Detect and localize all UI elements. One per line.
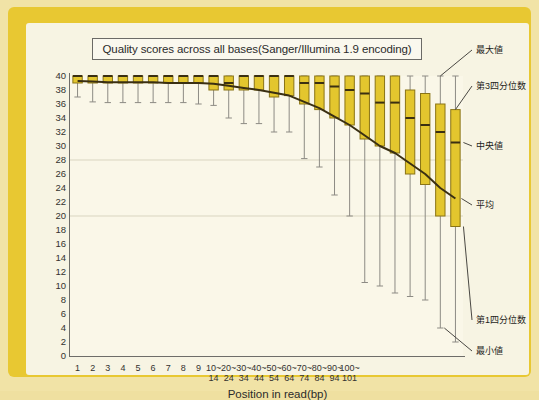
- boxplot-item: [224, 76, 233, 118]
- boxplot-item: [133, 76, 142, 103]
- y-axis-tick-24: 24: [40, 183, 66, 193]
- boxplot-item: [300, 76, 309, 159]
- boxplot-item: [375, 76, 384, 286]
- boxplot-item: [73, 76, 82, 97]
- y-axis-tick-38: 38: [40, 85, 66, 95]
- boxplot-item: [164, 76, 173, 103]
- y-axis-tick-2: 2: [40, 337, 66, 347]
- boxplot-item: [88, 76, 97, 102]
- chart-panel: Quality scores across all bases(Sanger/I…: [26, 23, 529, 375]
- boxplot-item: [390, 76, 399, 293]
- annotation-min: 最小値: [476, 346, 503, 356]
- y-axis-tick-0: 0: [40, 351, 66, 361]
- boxplot-item: [436, 76, 445, 328]
- y-axis-tick-6: 6: [40, 309, 66, 319]
- boxplot-item: [239, 76, 248, 124]
- y-axis-tick-16: 16: [40, 239, 66, 249]
- boxplot-item: [330, 76, 339, 195]
- boxplot-item: [421, 76, 430, 300]
- y-axis-labels: 4038363432302826242220181614121086420: [36, 76, 66, 356]
- boxplot-item: [148, 76, 157, 103]
- y-axis-line: [69, 73, 70, 357]
- leader-q1: [463, 227, 472, 321]
- chart-title: Quality scores across all bases(Sanger/I…: [92, 38, 422, 60]
- y-axis-tick-14: 14: [40, 253, 66, 263]
- boxplot-item: [405, 76, 414, 297]
- y-axis-tick-12: 12: [40, 267, 66, 277]
- annotation-q1: 第1四分位数: [476, 315, 526, 325]
- annotation-max: 最大値: [476, 45, 503, 55]
- y-axis-tick-8: 8: [40, 295, 66, 305]
- x-axis-labels: 12345678910~1420~2430~3440~4450~5460~647…: [70, 359, 463, 389]
- y-axis-tick-40: 40: [40, 71, 66, 81]
- y-axis-tick-36: 36: [40, 99, 66, 109]
- y-axis-tick-30: 30: [40, 141, 66, 151]
- annotation-median: 中央値: [476, 141, 503, 151]
- y-axis-tick-22: 22: [40, 197, 66, 207]
- boxplot-item: [118, 76, 127, 103]
- boxplot-item: [209, 76, 218, 105]
- boxplot-item: [451, 76, 460, 342]
- y-axis-tick-28: 28: [40, 155, 66, 165]
- x-axis-title: Position in read(bp): [26, 388, 529, 400]
- boxplot-item: [360, 76, 369, 283]
- leader-median: [463, 143, 472, 147]
- y-axis-tick-32: 32: [40, 127, 66, 137]
- x-axis-tick-19: 100~101: [332, 363, 368, 383]
- boxplot-svg: [70, 76, 463, 356]
- boxplot-item: [315, 76, 324, 167]
- boxplot-item: [254, 76, 263, 124]
- boxplot-item: [194, 76, 203, 104]
- plot-area: [70, 76, 463, 356]
- annotation-q3: 第3四分位数: [476, 81, 526, 91]
- leader-max: [440, 50, 472, 76]
- y-axis-tick-10: 10: [40, 281, 66, 291]
- boxplot-item: [284, 76, 293, 132]
- annotation-mean: 平均: [476, 200, 494, 210]
- leader-mean: [461, 199, 472, 206]
- boxplot-item: [345, 76, 354, 216]
- chart-frame: Quality scores across all bases(Sanger/I…: [8, 7, 531, 377]
- boxplot-item: [179, 76, 188, 103]
- y-axis-tick-34: 34: [40, 113, 66, 123]
- y-axis-tick-4: 4: [40, 323, 66, 333]
- x-axis-line: [69, 356, 465, 357]
- y-axis-tick-18: 18: [40, 225, 66, 235]
- boxplot-item: [103, 76, 112, 103]
- y-axis-tick-20: 20: [40, 211, 66, 221]
- boxplot-item: [269, 76, 278, 132]
- y-axis-tick-26: 26: [40, 169, 66, 179]
